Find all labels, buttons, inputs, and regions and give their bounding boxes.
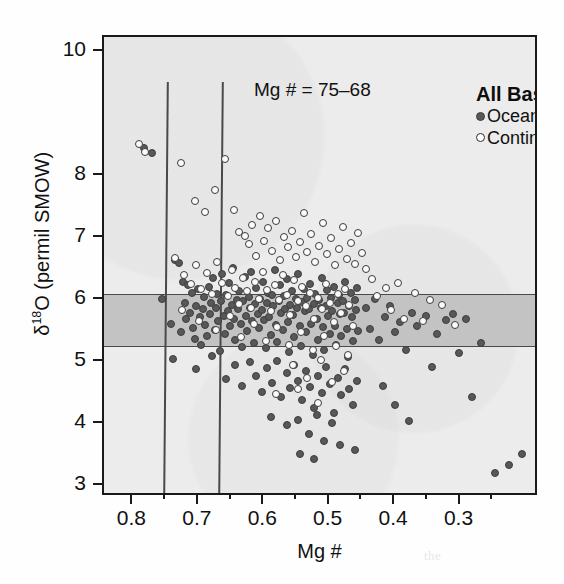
x-axis-title: Mg #: [102, 540, 537, 563]
data-point-continental: [289, 361, 297, 369]
data-point-oceanic: [391, 401, 399, 409]
data-point-oceanic: [351, 446, 359, 454]
data-point-continental: [337, 309, 345, 317]
x-minor-tick: [294, 493, 296, 499]
data-point-continental: [212, 326, 220, 334]
data-point-oceanic: [402, 346, 410, 354]
data-point-continental: [268, 247, 276, 255]
data-point-oceanic: [449, 310, 457, 318]
data-point-oceanic: [189, 324, 197, 332]
data-point-continental: [330, 318, 338, 326]
data-point-continental: [279, 271, 287, 279]
data-point-oceanic: [366, 325, 374, 333]
y-tick: [93, 483, 104, 485]
data-point-continental: [327, 234, 335, 242]
data-point-oceanic: [283, 369, 291, 377]
x-minor-tick: [359, 493, 361, 499]
data-point-oceanic: [192, 365, 200, 373]
data-point-continental: [201, 208, 209, 216]
x-tick: [392, 493, 394, 504]
x-tick-label: 0.6: [232, 506, 292, 530]
x-tick-label: 0.4: [363, 506, 423, 530]
plot-area: Mg # = 75–68 All Basalts Oceanic basalts…: [102, 35, 537, 495]
data-point-continental: [326, 299, 334, 307]
data-point-continental: [260, 237, 268, 245]
data-point-continental: [354, 229, 362, 237]
data-point-oceanic: [286, 384, 294, 392]
y-axis-title: δ18O (permil SMOW): [30, 94, 54, 394]
data-point-continental: [178, 306, 186, 314]
data-point-oceanic: [336, 441, 344, 449]
data-point-oceanic: [148, 149, 156, 157]
paper-texture: [104, 37, 535, 493]
data-point-continental: [239, 274, 247, 282]
data-point-oceanic: [158, 295, 166, 303]
data-point-continental: [368, 275, 376, 283]
data-point-continental: [362, 265, 370, 273]
data-point-continental: [298, 283, 306, 291]
data-point-oceanic: [320, 437, 328, 445]
x-minor-tick: [425, 493, 427, 499]
data-point-continental: [283, 291, 291, 299]
data-point-oceanic: [505, 461, 513, 469]
data-point-oceanic: [320, 346, 328, 354]
data-point-continental: [135, 140, 143, 148]
data-point-continental: [255, 295, 263, 303]
y-tick: [93, 359, 104, 361]
data-point-oceanic: [263, 364, 271, 372]
data-point-oceanic: [259, 278, 267, 286]
data-point-oceanic: [222, 375, 230, 383]
data-point-continental: [280, 233, 288, 241]
data-point-continental: [358, 249, 366, 257]
data-point-oceanic: [258, 306, 266, 314]
x-tick-label: 0.3: [429, 506, 489, 530]
x-tick: [458, 493, 460, 504]
data-point-continental: [288, 227, 296, 235]
data-point-oceanic: [231, 361, 239, 369]
data-point-continental: [221, 155, 229, 163]
x-minor-tick: [229, 493, 231, 499]
data-point-continental: [252, 252, 260, 260]
x-tick: [196, 493, 198, 504]
data-point-oceanic: [345, 385, 353, 393]
data-point-oceanic: [283, 421, 291, 429]
x-minor-tick: [163, 493, 165, 499]
data-point-oceanic: [518, 450, 526, 458]
data-point-continental: [285, 341, 293, 349]
data-point-continental: [211, 186, 219, 194]
data-point-oceanic: [353, 377, 361, 385]
data-point-continental: [322, 280, 330, 288]
y-tick: [93, 49, 104, 51]
data-point-continental: [334, 290, 342, 298]
y-tick: [93, 235, 104, 237]
x-tick-label: 0.8: [101, 506, 161, 530]
y-tick: [93, 297, 104, 299]
data-point-oceanic: [318, 389, 326, 397]
data-point-continental: [197, 285, 205, 293]
data-point-oceanic: [322, 363, 330, 371]
data-point-oceanic: [433, 330, 441, 338]
data-point-continental: [306, 289, 314, 297]
data-point-continental: [284, 243, 292, 251]
data-point-continental: [309, 346, 317, 354]
data-point-oceanic: [177, 328, 185, 336]
data-point-oceanic: [294, 377, 302, 385]
data-point-oceanic: [313, 411, 321, 419]
data-point-continental: [317, 356, 325, 364]
y-tick: [93, 421, 104, 423]
data-point-continental: [247, 304, 255, 312]
data-point-continental: [290, 276, 298, 284]
data-point-continental: [319, 219, 327, 227]
data-point-continental: [245, 240, 253, 248]
data-point-continental: [394, 279, 402, 287]
data-point-continental: [331, 261, 339, 269]
data-point-continental: [177, 159, 185, 167]
data-point-continental: [323, 250, 331, 258]
data-point-continental: [251, 278, 259, 286]
data-point-continental: [310, 315, 318, 323]
data-point-continental: [262, 337, 270, 345]
data-point-oceanic: [267, 413, 275, 421]
data-point-oceanic: [379, 382, 387, 390]
data-point-oceanic: [297, 342, 305, 350]
data-point-continental: [303, 374, 311, 382]
